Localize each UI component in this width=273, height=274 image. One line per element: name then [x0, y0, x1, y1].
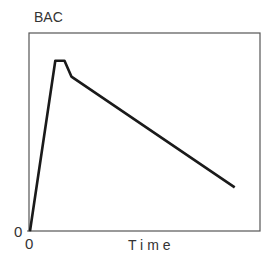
plot-frame	[29, 33, 260, 231]
bac-curve	[30, 61, 235, 231]
plot-area	[0, 0, 273, 274]
y-origin-label: 0	[14, 223, 22, 240]
x-axis-label: Time	[128, 237, 175, 253]
x-origin-label: 0	[25, 235, 33, 252]
